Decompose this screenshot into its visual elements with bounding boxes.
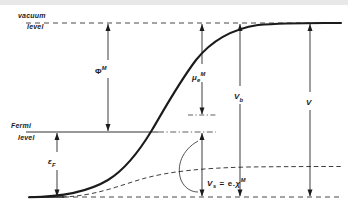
total-potential-label: V (306, 99, 312, 107)
work-function-label: ΦM (95, 66, 107, 76)
fermi-energy-arrowhead-top (55, 133, 60, 140)
measure-barrier-potential (238, 24, 243, 197)
measure-chemical-potential (200, 24, 205, 115)
measure-surface-potential (200, 133, 205, 197)
total-potential-arrowhead-top (308, 24, 313, 31)
chemical-potential-label: μeM (192, 72, 205, 84)
fermi-energy-subscript: F (52, 162, 56, 168)
measure-total-potential (308, 24, 313, 197)
work-function-arrowhead-top (106, 24, 111, 31)
connector-arc (179, 141, 198, 192)
work-function-symbol: Φ (95, 67, 102, 76)
barrier-potential-arrowhead-top (238, 24, 243, 31)
measure-work-function (106, 24, 111, 131)
figure-container: vacuum level Fermi level ΦM μeM εF Vb V … (0, 0, 348, 212)
chem-potential-arrowhead-top (200, 24, 205, 31)
energy-diagram-svg (0, 0, 348, 212)
surface-potential-arrowhead-bottom (200, 190, 205, 197)
surface-potential-equals: = e. (217, 179, 236, 188)
vacuum-level-label-line1: vacuum (18, 12, 46, 19)
fermi-level-label-line2: level (18, 134, 35, 141)
surface-potential-equation: Vs = e.χM (207, 178, 246, 190)
chemical-potential-superscript: M (200, 71, 205, 77)
fermi-energy-label: εF (48, 158, 56, 168)
barrier-potential-subscript: b (240, 97, 244, 103)
surface-potential-arrowhead-top (200, 133, 205, 140)
chem-potential-arrowhead-bottom (200, 108, 205, 115)
work-function-arrowhead-bottom (106, 124, 111, 131)
potential-barrier-curve (29, 23, 341, 197)
vacuum-level-label-line2: level (27, 23, 44, 30)
surface-potential-superscript: M (241, 177, 246, 183)
chemical-potential-subscript: e (197, 77, 200, 83)
barrier-potential-label: Vb (234, 93, 243, 103)
fermi-level-label-line1: Fermi (11, 122, 31, 129)
barrier-potential-arrowhead-bottom (238, 190, 243, 197)
total-potential-arrowhead-bottom (308, 190, 313, 197)
work-function-superscript: M (102, 65, 107, 71)
